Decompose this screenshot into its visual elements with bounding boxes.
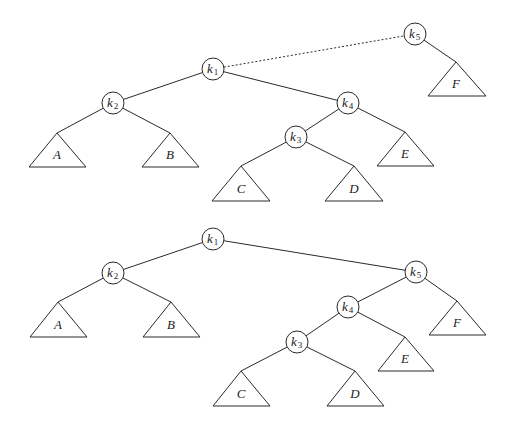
subtree-label: D — [349, 386, 360, 401]
edge-top-k3-C — [241, 142, 286, 166]
subtree-top-D: D — [325, 166, 383, 201]
node-label-subscript: 1 — [214, 237, 219, 247]
subtree-label: A — [53, 317, 62, 332]
subtree-label: C — [237, 386, 246, 401]
edge-top-k4-k3 — [305, 109, 339, 131]
edge-top-k1-k5 — [224, 36, 404, 67]
edge-top-k1-k4 — [224, 72, 338, 101]
node-label-base: k — [410, 264, 416, 279]
tree-diagram: ABCDEFABCDEF k1k2k4k3k5k1k2k5k4k3 — [0, 0, 510, 425]
edge-top-k2-A — [57, 108, 103, 133]
node-label-base: k — [409, 26, 415, 41]
edge-top-k3-D — [306, 142, 354, 166]
edge-bottom-k2-B — [123, 278, 171, 302]
node-label-base: k — [107, 95, 113, 110]
subtree-bottom-F: F — [429, 301, 486, 335]
edges-layer — [57, 36, 457, 371]
subtree-label: D — [348, 181, 359, 196]
subtree-top-C: C — [212, 166, 270, 201]
edge-bottom-k4-k3 — [306, 313, 339, 336]
edge-bottom-k4-E — [358, 312, 405, 337]
node-top-k1: k1 — [202, 58, 224, 80]
node-top-k5: k5 — [404, 23, 426, 45]
node-bottom-k1: k1 — [202, 228, 224, 250]
node-label-subscript: 4 — [349, 101, 354, 111]
nodes-layer: k1k2k4k3k5k1k2k5k4k3 — [102, 23, 427, 353]
subtree-label: E — [400, 351, 409, 366]
node-bottom-k4: k4 — [337, 296, 359, 318]
node-label-base: k — [342, 95, 348, 110]
node-label-base: k — [291, 334, 297, 349]
edge-bottom-k5-F — [425, 278, 457, 301]
edge-bottom-k3-C — [241, 347, 287, 371]
edge-bottom-k1-k2 — [123, 243, 202, 270]
subtree-bottom-A: A — [30, 302, 87, 337]
node-bottom-k2: k2 — [102, 262, 124, 284]
subtree-label: F — [452, 315, 462, 330]
edge-top-k1-k2 — [123, 73, 202, 100]
subtree-label: B — [166, 147, 174, 162]
node-label-subscript: 5 — [416, 32, 421, 42]
node-label-base: k — [107, 265, 113, 280]
node-label-subscript: 1 — [214, 67, 219, 77]
edge-bottom-k5-k4 — [358, 277, 406, 302]
node-label-base: k — [342, 299, 348, 314]
subtree-label: E — [400, 146, 409, 161]
subtrees-layer: ABCDEFABCDEF — [29, 62, 486, 406]
node-bottom-k5: k5 — [405, 261, 427, 283]
node-label-subscript: 2 — [114, 101, 119, 111]
node-label-base: k — [207, 61, 213, 76]
edge-bottom-k3-D — [307, 347, 355, 371]
node-bottom-k3: k3 — [286, 331, 308, 353]
edge-bottom-k2-A — [58, 278, 103, 302]
node-top-k2: k2 — [102, 92, 124, 114]
node-label-subscript: 2 — [114, 271, 119, 281]
subtree-top-E: E — [377, 132, 434, 166]
edge-top-k2-B — [123, 108, 170, 133]
subtree-label: C — [237, 181, 246, 196]
subtree-label: B — [167, 317, 175, 332]
node-label-base: k — [207, 231, 213, 246]
node-label-base: k — [290, 129, 296, 144]
subtree-bottom-C: C — [213, 371, 270, 406]
subtree-bottom-D: D — [327, 371, 384, 406]
subtree-top-B: B — [142, 133, 199, 167]
subtree-bottom-E: E — [378, 337, 434, 371]
subtree-label: A — [52, 147, 61, 162]
subtree-top-A: A — [29, 133, 86, 167]
node-label-subscript: 5 — [417, 270, 422, 280]
edge-top-k4-E — [358, 108, 405, 132]
subtree-label: F — [451, 76, 461, 91]
node-top-k3: k3 — [285, 126, 307, 148]
node-label-subscript: 3 — [297, 135, 302, 145]
node-top-k4: k4 — [337, 92, 359, 114]
edge-bottom-k1-k5 — [224, 241, 405, 270]
node-label-subscript: 3 — [298, 340, 303, 350]
subtree-bottom-B: B — [143, 302, 200, 337]
edge-top-k5-F — [424, 40, 456, 62]
node-label-subscript: 4 — [349, 305, 354, 315]
subtree-top-F: F — [428, 62, 486, 96]
